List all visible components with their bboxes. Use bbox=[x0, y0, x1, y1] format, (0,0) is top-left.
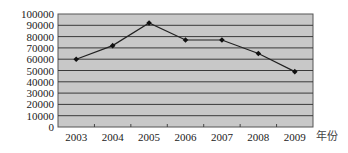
x-tick-label: 2009 bbox=[284, 131, 307, 143]
x-tick-label: 2007 bbox=[211, 131, 234, 143]
line-chart: 0100002000030000400005000060000700008000… bbox=[0, 0, 348, 153]
y-tick-label: 60000 bbox=[27, 53, 55, 65]
y-tick-label: 20000 bbox=[27, 98, 55, 110]
y-axis-tick-labels: 0100002000030000400005000060000700008000… bbox=[21, 8, 55, 133]
y-tick-label: 50000 bbox=[27, 65, 55, 77]
x-tick-label: 2004 bbox=[102, 131, 125, 143]
y-tick-label: 80000 bbox=[27, 31, 55, 43]
y-tick-label: 0 bbox=[49, 121, 55, 133]
y-tick-label: 10000 bbox=[27, 110, 55, 122]
y-tick-label: 40000 bbox=[27, 76, 55, 88]
y-tick-label: 70000 bbox=[27, 42, 55, 54]
x-tick-label: 2003 bbox=[65, 131, 88, 143]
y-tick-label: 30000 bbox=[27, 87, 55, 99]
x-axis-label: 年份 bbox=[316, 129, 338, 143]
x-axis-tick-labels: 2003200420052006200720082009 bbox=[65, 131, 306, 143]
y-tick-label: 90000 bbox=[27, 19, 55, 31]
y-tick-label: 100000 bbox=[21, 8, 55, 20]
x-tick-label: 2008 bbox=[247, 131, 270, 143]
x-tick-label: 2006 bbox=[175, 131, 198, 143]
x-tick-label: 2005 bbox=[138, 131, 161, 143]
